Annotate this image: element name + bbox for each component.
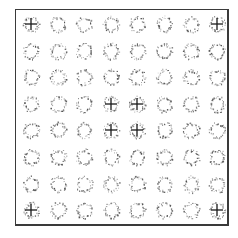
speckle-cell bbox=[73, 93, 95, 115]
speckle-cell bbox=[126, 40, 148, 62]
speckle-cell bbox=[153, 146, 175, 168]
speckle-cell bbox=[180, 13, 202, 35]
speckle-cell bbox=[206, 173, 228, 195]
speckle-cell bbox=[180, 40, 202, 62]
speckle-cell bbox=[126, 66, 148, 88]
crosshair-speckle-cell bbox=[100, 93, 122, 115]
speckle-cell bbox=[73, 173, 95, 195]
speckle-cell bbox=[20, 93, 42, 115]
speckle-cell bbox=[47, 13, 69, 35]
speckle-cell bbox=[47, 66, 69, 88]
speckle-cell bbox=[73, 66, 95, 88]
speckle-cell bbox=[126, 199, 148, 221]
speckle-cell bbox=[20, 173, 42, 195]
speckle-cell bbox=[20, 66, 42, 88]
speckle-cell bbox=[153, 13, 175, 35]
speckle-cell bbox=[100, 173, 122, 195]
speckle-cell bbox=[180, 199, 202, 221]
speckle-cell bbox=[100, 146, 122, 168]
speckle-cell bbox=[153, 119, 175, 141]
speckle-cell bbox=[126, 146, 148, 168]
speckle-cell bbox=[153, 66, 175, 88]
speckle-cell bbox=[73, 40, 95, 62]
crosshair-speckle-cell bbox=[20, 13, 42, 35]
speckle-cell bbox=[20, 146, 42, 168]
speckle-cell bbox=[47, 119, 69, 141]
speckle-cell bbox=[126, 13, 148, 35]
speckle-cell bbox=[20, 40, 42, 62]
speckle-cell bbox=[206, 40, 228, 62]
speckle-cell bbox=[180, 119, 202, 141]
speckle-cell bbox=[47, 173, 69, 195]
speckle-cell bbox=[73, 199, 95, 221]
speckle-cell bbox=[47, 93, 69, 115]
speckle-cell bbox=[100, 40, 122, 62]
speckle-cell bbox=[180, 93, 202, 115]
crosshair-speckle-cell bbox=[206, 199, 228, 221]
speckle-cell bbox=[206, 146, 228, 168]
speckle-cell bbox=[47, 146, 69, 168]
speckle-cell bbox=[47, 40, 69, 62]
speckle-cell bbox=[100, 13, 122, 35]
crosshair-speckle-cell bbox=[20, 199, 42, 221]
speckle-cell bbox=[153, 40, 175, 62]
speckle-cell bbox=[153, 173, 175, 195]
crosshair-speckle-cell bbox=[126, 93, 148, 115]
crosshair-speckle-cell bbox=[206, 13, 228, 35]
speckle-cell bbox=[180, 173, 202, 195]
speckle-cell bbox=[153, 199, 175, 221]
speckle-cell bbox=[100, 199, 122, 221]
speckle-cell bbox=[73, 146, 95, 168]
speckle-cell bbox=[180, 146, 202, 168]
speckle-cell bbox=[73, 119, 95, 141]
speckle-cell bbox=[47, 199, 69, 221]
speckle-cell bbox=[206, 93, 228, 115]
speckle-cell bbox=[73, 13, 95, 35]
speckle-cell bbox=[206, 66, 228, 88]
speckle-cell bbox=[100, 66, 122, 88]
crosshair-speckle-cell bbox=[100, 119, 122, 141]
speckle-cell bbox=[126, 173, 148, 195]
crosshair-speckle-cell bbox=[126, 119, 148, 141]
speckle-cell bbox=[153, 93, 175, 115]
speckle-cell bbox=[20, 119, 42, 141]
speckle-cell bbox=[206, 119, 228, 141]
speckle-cell bbox=[180, 66, 202, 88]
